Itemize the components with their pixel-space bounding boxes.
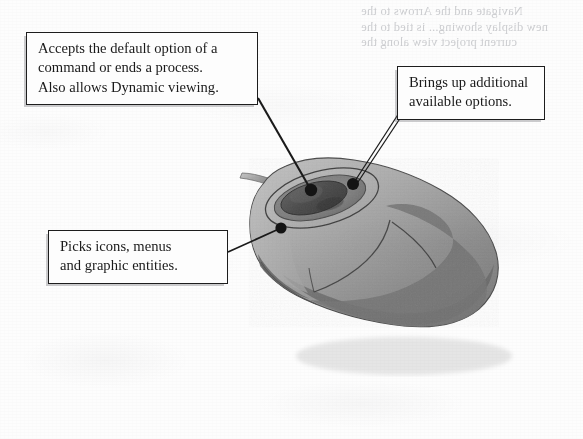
callout-picks-line-1: Picks icons, menus [60, 237, 218, 256]
callout-picks-icons-menus: Picks icons, menus and graphic entities. [48, 230, 228, 284]
mouse-drop-shadow [296, 337, 512, 375]
page-bleed-through-text: Navigate and the Arrows to the new displ… [361, 4, 561, 51]
callout-accept-line-1: Accepts the default option of a [38, 39, 248, 58]
mouse-illustration [236, 142, 536, 377]
bleed-through-line-3: current project view along the [361, 35, 561, 51]
callout-additional-options: Brings up additional available options. [397, 66, 545, 120]
mouse-print-grain [250, 158, 498, 327]
callout-accept-line-2: command or ends a process. [38, 58, 248, 77]
bleed-through-line-2: new display showing... is tied to the [361, 20, 561, 36]
callout-accept-line-3: Also allows Dynamic viewing. [38, 78, 248, 97]
bleed-through-line-1: Navigate and the Arrows to the [361, 4, 561, 20]
mouse-body-group [240, 157, 512, 375]
callout-picks-line-2: and graphic entities. [60, 256, 218, 275]
callout-accept-default-option: Accepts the default option of a command … [26, 32, 258, 105]
callout-options-line-2: available options. [409, 92, 535, 111]
figure-page: Navigate and the Arrows to the new displ… [0, 0, 583, 439]
callout-options-line-1: Brings up additional [409, 73, 535, 92]
